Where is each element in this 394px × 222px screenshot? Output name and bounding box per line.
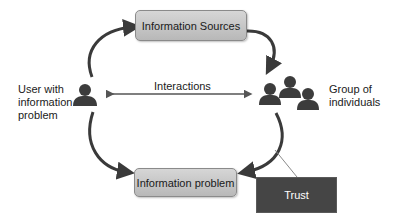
trust-connector-line	[275, 150, 297, 177]
group-of-people-icon	[259, 76, 319, 110]
person-icon	[73, 84, 97, 106]
interactions-label: Interactions	[154, 80, 211, 93]
information-sources-label: Information Sources	[142, 20, 240, 32]
user-label: User with information problem	[18, 83, 72, 122]
group-label: Group of individuals	[329, 83, 380, 109]
information-sources-box: Information Sources	[135, 10, 247, 41]
arrow-sources-to-group	[246, 31, 274, 67]
information-problem-box: Information problem	[134, 168, 237, 197]
arrow-group-to-problem	[246, 113, 282, 172]
trust-label: Trust	[284, 189, 309, 201]
arrow-user-to-sources	[89, 27, 132, 77]
trust-box: Trust	[256, 177, 337, 213]
information-problem-label: Information problem	[137, 177, 235, 189]
arrow-user-to-problem	[90, 112, 126, 172]
